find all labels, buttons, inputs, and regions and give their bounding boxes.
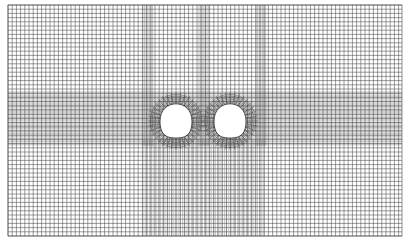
left-tunnel — [160, 104, 192, 138]
mesh-border — [8, 5, 402, 236]
mesh-grid — [8, 5, 402, 236]
right-tunnel — [214, 104, 246, 138]
mesh-diagram — [0, 0, 407, 243]
